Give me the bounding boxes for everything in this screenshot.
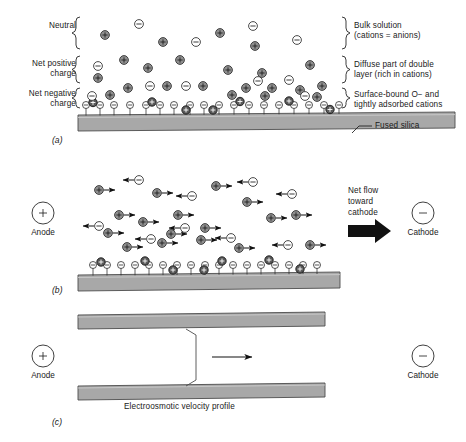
label-diffuse-layer-line1: Diffuse part of double [354,60,434,71]
label-bulk-solution-line2: (cations = anions) [354,31,421,42]
label-net-flow-line3: cathode [348,208,378,219]
label-bulk-solution-line1: Bulk solution [354,21,402,32]
panel-id-c: (c) [52,417,62,427]
label-net-negative-charge-line1: Net negative [6,89,76,100]
label-anode-c: Anode [13,371,73,380]
cathode-electrode-c [412,345,434,367]
velocity-profile-c [186,329,196,386]
label-neutral: Neutral [6,21,76,32]
figure-electroosmotic-flow: Neutral Net positive charge Net negative… [0,0,466,442]
label-net-positive-charge-line1: Net positive [6,59,76,70]
label-net-flow-line1: Net flow [348,186,378,197]
panel-id-b: (b) [52,285,63,295]
panel-id-a: (a) [52,135,63,145]
label-net-negative-charge-line2: charge [6,99,76,110]
label-velocity-profile-caption: Electroosmotic velocity profile [124,402,235,413]
bulk-solution-ions-a [101,20,302,51]
label-cathode-b: Cathode [393,228,453,237]
anode-electrode-c [32,345,54,367]
label-surface-bound-line1: Surface-bound O− and [354,90,439,101]
diffuse-layer-ions-a [88,56,327,102]
label-diffuse-layer-line2: layer (rich in cations) [354,70,432,81]
label-cathode-c: Cathode [393,371,453,380]
net-flow-arrow-b [348,219,391,243]
label-surface-bound-line2: tightly adsorbed cations [354,100,442,111]
label-net-positive-charge-line2: charge [6,69,76,80]
panel-c-graphics [32,312,434,400]
anode-electrode-b [32,202,54,224]
cathode-electrode-b [412,202,434,224]
label-anode-b: Anode [13,228,73,237]
right-braces-a [342,17,350,108]
label-net-flow-line2: toward [348,197,373,208]
label-fused-silica: Fused silica [375,121,419,132]
